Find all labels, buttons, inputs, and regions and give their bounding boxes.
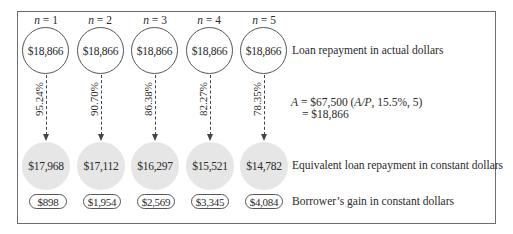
arrowhead-icon [207, 134, 213, 141]
constant-payment-circle-1: $17,968 [22, 142, 70, 190]
deflation-rate-4: 82.27% [197, 79, 209, 119]
conversion-arrow-5 [264, 75, 265, 135]
deflation-rate-1: 95.24% [33, 79, 45, 119]
gain-pill-1: $898 [29, 194, 67, 209]
legend-actual-dollars: Loan repayment in actual dollars [292, 44, 443, 56]
arrowhead-icon [152, 134, 158, 141]
arrowhead-icon [261, 134, 267, 141]
legend-constant-dollars: Equivalent loan repayment in constant do… [292, 159, 503, 171]
legend-borrower-gain: Borrower’s gain in constant dollars [292, 195, 454, 207]
actual-payment-circle-2: $18,866 [77, 27, 124, 74]
annuity-formula: A = $67,500 (A/P, 15.5%, 5) = $18,866 [291, 96, 422, 120]
gain-pill-4: $3,345 [191, 194, 229, 209]
constant-payment-circle-5: $14,782 [240, 142, 288, 190]
constant-payment-circle-3: $16,297 [131, 142, 179, 190]
gain-pill-5: $4,084 [245, 194, 283, 209]
deflation-rate-3: 86.38% [142, 79, 154, 119]
period-label-5: n = 5 [239, 14, 289, 26]
conversion-arrow-4 [210, 75, 211, 135]
period-label-3: n = 3 [130, 14, 180, 26]
arrowhead-icon [98, 134, 104, 141]
actual-payment-circle-4: $18,866 [186, 27, 233, 74]
gain-pill-3: $2,569 [137, 194, 175, 209]
deflation-rate-5: 78.35% [251, 79, 263, 119]
deflation-rate-2: 90.70% [88, 79, 100, 119]
gain-pill-2: $1,954 [83, 194, 121, 209]
actual-payment-circle-1: $18,866 [22, 27, 69, 74]
actual-payment-circle-5: $18,866 [240, 27, 287, 74]
period-label-2: n = 2 [75, 14, 125, 26]
conversion-arrow-1 [46, 75, 47, 135]
constant-payment-circle-2: $17,112 [77, 142, 125, 190]
actual-payment-circle-3: $18,866 [131, 27, 178, 74]
arrowhead-icon [43, 134, 49, 141]
period-label-1: n = 1 [21, 14, 71, 26]
period-label-4: n = 4 [184, 14, 234, 26]
conversion-arrow-2 [101, 75, 102, 135]
constant-payment-circle-4: $15,521 [186, 142, 234, 190]
conversion-arrow-3 [155, 75, 156, 135]
